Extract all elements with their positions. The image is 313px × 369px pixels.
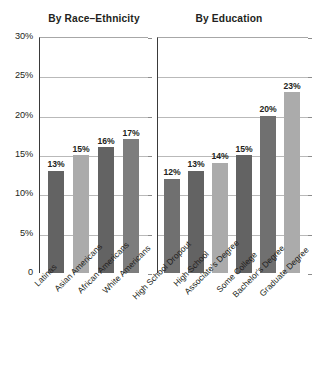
bar-african-americans: 16% — [98, 147, 114, 273]
y-axis-tick-label: 20% — [15, 111, 33, 120]
y-axis-tick-label: 30% — [15, 32, 33, 41]
y-axis-tickmark — [308, 235, 312, 236]
y-axis: 30% 25% 20% 15% 10% 5% 0 — [0, 0, 36, 369]
bar-associates-degree: 14% — [212, 163, 228, 273]
bar-value-label: 15% — [235, 145, 252, 154]
y-axis-tickmark — [148, 117, 152, 118]
panel-education: By Education 12% 13% 14% 15% — [157, 37, 308, 273]
bar-series-education: 12% 13% 14% 15% 20% 23% — [158, 38, 308, 273]
bar-value-label: 20% — [259, 105, 276, 114]
bar-series-race-ethnicity: 13% 15% 16% 17% — [40, 38, 148, 273]
y-axis-tickmark — [308, 156, 312, 157]
bar-value-label: 14% — [211, 152, 228, 161]
y-axis-tickmark — [308, 38, 312, 39]
bar-some-college: 15% — [236, 155, 252, 273]
y-axis-tickmark — [308, 77, 312, 78]
bar-value-label: 15% — [72, 145, 89, 154]
bar-high-school: 13% — [188, 171, 204, 273]
bar-chart-figure: 30% 25% 20% 15% 10% 5% 0 By Race–Ethnici… — [0, 0, 313, 369]
y-axis-tickmark — [148, 195, 152, 196]
bar-graduate-degree: 23% — [284, 92, 300, 273]
y-axis-tick-label: 0 — [28, 268, 33, 277]
y-axis-tick-label: 25% — [15, 72, 33, 81]
y-axis-tick-label: 10% — [15, 190, 33, 199]
bar-value-label: 16% — [97, 137, 114, 146]
bar-value-label: 17% — [122, 129, 139, 138]
bar-white-americans: 17% — [123, 139, 139, 273]
y-axis-tickmark — [308, 117, 312, 118]
bar-high-school-dropout: 12% — [164, 179, 180, 273]
y-axis-tickmark — [308, 195, 312, 196]
bar-value-label: 12% — [163, 168, 180, 177]
y-axis-tickmark — [308, 274, 312, 275]
y-axis-tickmark — [148, 77, 152, 78]
panel-race-ethnicity: By Race–Ethnicity 13% 15% 16% 17% — [39, 37, 148, 273]
bar-value-label: 13% — [187, 160, 204, 169]
y-axis-tickmark — [148, 156, 152, 157]
bar-bachelors-degree: 20% — [260, 116, 276, 273]
y-axis-tickmark — [148, 235, 152, 236]
panel-title-education: By Education — [154, 13, 304, 24]
y-axis-tick-label: 5% — [20, 229, 33, 238]
bar-value-label: 23% — [283, 82, 300, 91]
bar-latinas: 13% — [48, 171, 64, 273]
panel-title-race-ethnicity: By Race–Ethnicity — [40, 13, 148, 24]
y-axis-tickmark — [148, 274, 152, 275]
y-axis-tick-label: 15% — [15, 150, 33, 159]
bar-asian-americans: 15% — [73, 155, 89, 273]
bar-value-label: 13% — [47, 160, 64, 169]
y-axis-tickmark — [148, 38, 152, 39]
